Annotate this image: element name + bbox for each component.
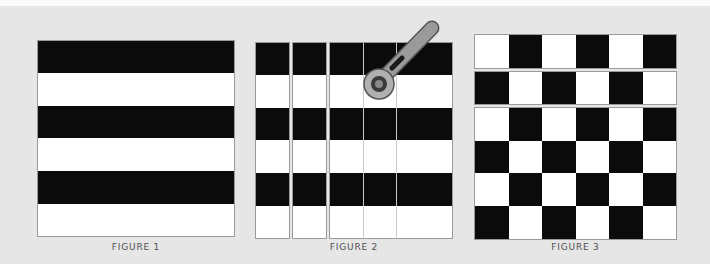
square-black — [542, 206, 576, 239]
square-black — [542, 141, 576, 173]
square-black — [475, 72, 509, 104]
figure-3-row-strip — [475, 35, 676, 68]
square-black — [509, 173, 543, 206]
square-black — [643, 173, 677, 206]
square-black — [609, 72, 643, 104]
square-black — [509, 35, 543, 68]
square-black — [576, 108, 610, 141]
square-black — [609, 206, 643, 239]
figure-3-caption: FIGURE 3 — [475, 242, 676, 252]
square-black — [643, 108, 677, 141]
square-black — [509, 108, 543, 141]
figure-3-row-strip — [475, 72, 676, 104]
square-black — [643, 35, 677, 68]
square-black — [576, 35, 610, 68]
figure-3-checkerboard — [475, 108, 676, 239]
square-black — [609, 141, 643, 173]
square-black — [475, 141, 509, 173]
square-black — [576, 173, 610, 206]
square-black — [542, 72, 576, 104]
figure-2-caption: FIGURE 2 — [256, 242, 452, 252]
square-black — [475, 206, 509, 239]
